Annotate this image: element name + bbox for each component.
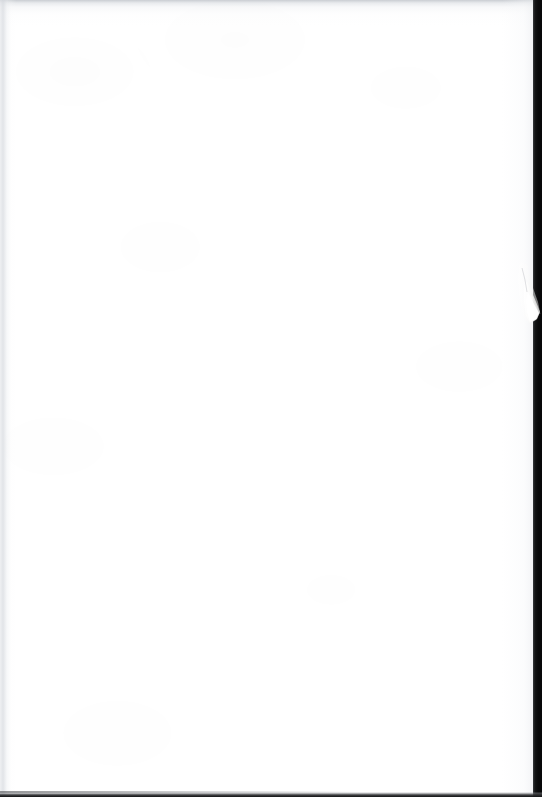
- scanned-page-image: Blank white scanned page with a thumb ho…: [0, 0, 542, 797]
- right-gutter-dark-strip: [533, 0, 542, 797]
- paper-grain-texture: [0, 0, 534, 797]
- page-sheet: [0, 0, 534, 797]
- bottom-edge-dark-line: [0, 792, 542, 797]
